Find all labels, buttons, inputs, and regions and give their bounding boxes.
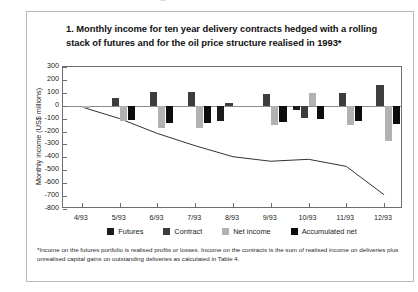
- bar-net-income-12-93: [385, 106, 392, 142]
- x-tick-label: 11/93: [337, 213, 354, 222]
- y-tick-mark: [63, 144, 67, 145]
- bar-net-income-4-93: [82, 106, 89, 109]
- bar-accumulated-net-5-93: [128, 106, 135, 120]
- y-tick-label: -600: [33, 179, 59, 186]
- bar-accumulated-net-11-93: [355, 106, 362, 121]
- y-tick-mark: [63, 209, 67, 210]
- x-tick-mark: [384, 203, 385, 207]
- legend-label: Net income: [233, 227, 270, 236]
- chart-legend: FuturesContractNet incomeAccumulated net: [62, 225, 402, 237]
- bar-net-income-9-93: [271, 106, 278, 125]
- bar-accumulated-net-9-93: [279, 106, 286, 122]
- x-tick-mark: [157, 203, 158, 207]
- y-axis-tick-labels: 3002001000-100-200-300-400-500-600-700-8…: [33, 66, 59, 208]
- y-tick-mark: [63, 93, 67, 94]
- x-tick-label: 5/93: [112, 213, 126, 222]
- plot-axes: [62, 66, 402, 208]
- y-tick-mark: [63, 132, 67, 133]
- x-tick-mark: [309, 203, 310, 207]
- bar-accumulated-net-12-93: [393, 106, 400, 125]
- y-tick-label: -100: [33, 114, 59, 121]
- bar-accumulated-net-7-93: [204, 106, 211, 123]
- bar-net-income-11-93: [347, 106, 354, 125]
- legend-swatch-icon: [163, 228, 170, 235]
- x-tick-mark: [82, 203, 83, 207]
- y-tick-mark: [63, 170, 67, 171]
- bar-net-income-5-93: [120, 106, 127, 121]
- y-tick-label: 200: [33, 75, 59, 82]
- figure-footnote: *Income on the futures portfolio is real…: [37, 246, 405, 263]
- y-tick-mark: [63, 119, 67, 120]
- y-tick-label: -500: [33, 166, 59, 173]
- x-tick-mark: [195, 203, 196, 207]
- x-tick-label: 10/93: [299, 213, 317, 222]
- figure-panel: 1. Monthly income for ten year delivery …: [26, 11, 414, 282]
- legend-item-accumulated-net[interactable]: Accumulated net: [291, 227, 357, 236]
- x-tick-label: 6/93: [149, 213, 163, 222]
- y-tick-label: 0: [33, 101, 59, 108]
- y-tick-label: 300: [33, 62, 59, 69]
- y-tick-label: -800: [33, 204, 59, 211]
- x-tick-label: 12/93: [374, 213, 392, 222]
- y-tick-label: -400: [33, 153, 59, 160]
- x-tick-label: 8/93: [225, 213, 239, 222]
- bar-net-income-6-93: [158, 106, 165, 129]
- x-tick-mark: [271, 203, 272, 207]
- bar-accumulated-net-10-93: [317, 106, 324, 120]
- bar-contract-8-93: [225, 103, 232, 106]
- legend-item-contract[interactable]: Contract: [163, 227, 202, 236]
- bar-accumulated-net-6-93: [166, 106, 173, 123]
- x-tick-mark: [120, 203, 121, 207]
- bar-net-income-7-93: [196, 106, 203, 128]
- x-tick-mark: [233, 203, 234, 207]
- y-tick-mark: [63, 106, 67, 107]
- cropped-text-fragment: · _ · · · · · · · · ·: [150, 0, 262, 1]
- y-tick-label: -700: [33, 191, 59, 198]
- legend-item-futures[interactable]: Futures: [107, 227, 143, 236]
- accumulated-net-line-series: [63, 67, 403, 209]
- y-tick-mark: [63, 80, 67, 81]
- legend-item-net-income[interactable]: Net income: [222, 227, 270, 236]
- y-tick-mark: [63, 196, 67, 197]
- x-tick-label: 7/93: [187, 213, 201, 222]
- bar-contract-12-93: [376, 85, 383, 106]
- legend-swatch-icon: [107, 228, 114, 235]
- legend-label: Contract: [174, 227, 202, 236]
- bar-contract-7-93: [188, 92, 195, 106]
- legend-label: Futures: [118, 227, 143, 236]
- x-tick-label: 4/93: [74, 213, 88, 222]
- x-tick-label: 9/93: [263, 213, 277, 222]
- bar-contract-6-93: [150, 92, 157, 106]
- y-tick-label: -200: [33, 127, 59, 134]
- legend-swatch-icon: [222, 228, 229, 235]
- page-bleed-top: · _ · · · · · · · · ·: [0, 0, 418, 9]
- y-tick-mark: [63, 157, 67, 158]
- legend-swatch-icon: [291, 228, 298, 235]
- bar-contract-5-93: [112, 98, 119, 106]
- bar-futures-10-93: [293, 106, 300, 110]
- bar-futures-8-93: [217, 106, 224, 121]
- x-tick-mark: [346, 203, 347, 207]
- bar-contract-11-93: [339, 93, 346, 105]
- y-tick-label: -300: [33, 140, 59, 147]
- y-tick-mark: [63, 67, 67, 68]
- legend-label: Accumulated net: [302, 227, 357, 236]
- y-tick-mark: [63, 183, 67, 184]
- plot-area-wrapper: Monthly income (US$ millions) 3002001000…: [27, 12, 415, 283]
- bar-contract-10-93: [301, 106, 308, 118]
- bar-net-income-10-93: [309, 93, 316, 106]
- bar-contract-9-93: [263, 94, 270, 106]
- y-tick-label: 100: [33, 88, 59, 95]
